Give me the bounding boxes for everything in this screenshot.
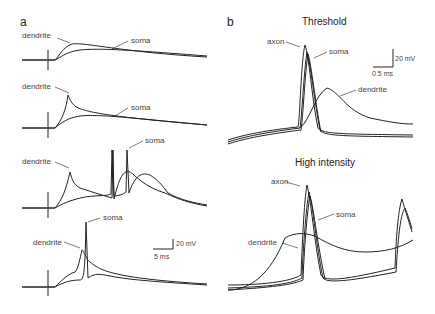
- high-axon-label: axon: [271, 178, 288, 186]
- scalebar-b: [373, 49, 393, 67]
- panel-b-label: b: [227, 16, 234, 28]
- scalebar-b-voltage: 20 mV: [395, 55, 415, 62]
- scalebar-a: [153, 239, 173, 249]
- high-soma-label: soma: [336, 211, 356, 219]
- trace3-soma-label: soma: [145, 137, 165, 145]
- trace4-soma-label: soma: [103, 214, 123, 222]
- figure-traces: [0, 0, 435, 314]
- high-intensity-title: High intensity: [295, 158, 355, 168]
- threshold-dendrite-label: dendrite: [358, 86, 387, 94]
- trace-a2: [22, 87, 207, 138]
- trace-b-high: [228, 182, 413, 290]
- scalebar-a-time: 5 ms: [154, 253, 169, 260]
- trace4-dendrite-label: dendrite: [33, 239, 62, 247]
- trace1-soma-label: soma: [131, 37, 151, 45]
- scalebar-a-voltage: 20 mV: [176, 240, 196, 247]
- trace-a1: [22, 38, 207, 70]
- panel-a-label: a: [20, 16, 27, 28]
- threshold-axon-label: axon: [267, 38, 284, 46]
- trace-a4: [22, 218, 207, 296]
- trace-a3: [22, 141, 207, 218]
- high-dendrite-label: dendrite: [248, 239, 277, 247]
- threshold-soma-label: soma: [329, 48, 349, 56]
- trace2-dendrite-label: dendrite: [22, 83, 51, 91]
- trace2-soma-label: soma: [131, 104, 151, 112]
- trace1-dendrite-label: dendrite: [22, 32, 51, 40]
- trace3-dendrite-label: dendrite: [22, 158, 51, 166]
- scalebar-b-time: 0.5 ms: [372, 70, 393, 77]
- threshold-title: Threshold: [302, 17, 346, 27]
